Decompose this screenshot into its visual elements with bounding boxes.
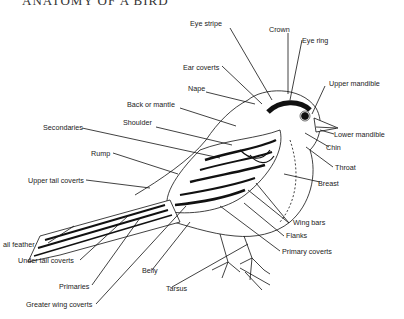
label-primary-coverts: Primary coverts [282, 248, 332, 255]
label-tail-feather: ail feather [3, 241, 35, 248]
label-crown: Crown [269, 26, 290, 33]
label-wing-bars: Wing bars [293, 219, 325, 226]
label-nape: Nape [188, 85, 205, 92]
label-back-or-mantle: Back or mantle [127, 101, 175, 108]
label-shoulder: Shoulder [123, 119, 152, 126]
label-breast: Breast [318, 180, 339, 187]
label-eye-stripe: Eye stripe [190, 20, 222, 27]
label-chin: Chin [326, 144, 341, 151]
eye [302, 113, 309, 120]
label-upper-mandible: Upper mandible [329, 80, 380, 87]
label-secondaries: Secondaries [43, 124, 83, 131]
label-rump: Rump [91, 150, 110, 157]
breast-line [280, 140, 296, 222]
label-lower-mandible: Lower mandible [334, 131, 385, 138]
tail [28, 200, 180, 262]
eye-stripe-mark [268, 103, 310, 112]
label-belly: Belly [142, 267, 158, 274]
label-ear-coverts: Ear coverts [183, 64, 219, 71]
label-throat: Throat [335, 164, 356, 171]
label-under-tail-coverts: Under tail coverts [18, 257, 74, 264]
label-greater-wing-coverts: Greater wing coverts [26, 301, 92, 308]
label-eye-ring: Eye ring [302, 37, 328, 44]
label-upper-tail-coverts: Upper tail coverts [28, 177, 84, 184]
label-primaries: Primaries [59, 283, 89, 290]
leg-right [240, 236, 270, 280]
bird-illustration [0, 0, 404, 319]
label-tarsus: Tarsus [166, 285, 187, 292]
label-flanks: Flanks [286, 232, 307, 239]
wing [167, 130, 281, 213]
